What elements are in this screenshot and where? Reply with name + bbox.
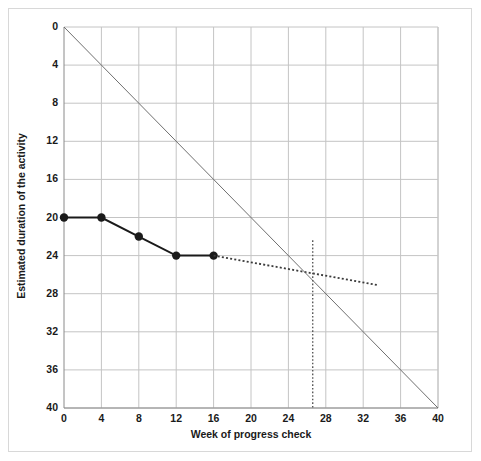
y-tick-label: 4 [28,58,58,70]
data-point-marker [97,213,105,221]
y-tick-label: 28 [28,287,58,299]
data-point-marker [209,251,217,259]
x-tick-label: 20 [236,412,266,424]
data-point-marker [135,232,143,240]
y-tick-label: 12 [28,134,58,146]
y-tick-label: 20 [28,211,58,223]
y-tick-label: 16 [28,172,58,184]
y-tick-label: 0 [28,20,58,32]
chart-figure: Estimated duration of the activity Week … [0,0,481,461]
y-tick-label: 8 [28,96,58,108]
x-tick-label: 32 [348,412,378,424]
x-tick-label: 8 [124,412,154,424]
y-tick-label: 32 [28,325,58,337]
y-axis-title: Estimated duration of the activity [15,121,27,311]
data-point-marker [172,251,180,259]
x-tick-label: 36 [386,412,416,424]
x-axis-title: Week of progress check [64,428,438,440]
x-tick-label: 0 [49,412,79,424]
x-tick-label: 16 [199,412,229,424]
y-tick-label: 24 [28,249,58,261]
x-tick-label: 28 [311,412,341,424]
y-tick-label: 36 [28,363,58,375]
plot-canvas [0,0,481,461]
x-tick-label: 4 [86,412,116,424]
x-tick-label: 40 [423,412,453,424]
y-tick-label: 40 [28,401,58,413]
data-point-marker [60,213,68,221]
x-tick-label: 24 [273,412,303,424]
x-tick-label: 12 [161,412,191,424]
